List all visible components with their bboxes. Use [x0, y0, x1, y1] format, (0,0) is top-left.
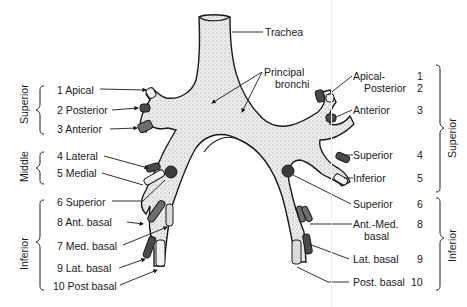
- left-group-superior: Superior: [18, 84, 30, 124]
- label-principal: Principal: [264, 66, 304, 78]
- label-bronchi: bronchi: [275, 78, 309, 90]
- right-group-superior: Superior: [446, 118, 458, 158]
- left-group-middle: Middle: [18, 151, 30, 182]
- left-seg-5-medial: 5 Medial: [57, 167, 97, 179]
- right-seg-2-posterior: Posterior: [364, 82, 406, 94]
- right-seg-6-superior: Superior: [353, 198, 393, 210]
- left-group-inferior: Inferior: [18, 237, 30, 270]
- right-seg-8-basal: basal: [364, 230, 389, 242]
- scan-divider-line: [331, 0, 332, 307]
- right-num-4: 4: [417, 149, 423, 161]
- right-seg-8-ant-med: Ant.-Med.: [353, 218, 399, 230]
- right-num-5: 5: [417, 172, 423, 184]
- right-num-8: 8: [417, 218, 423, 230]
- left-seg-4-lateral: 4 Lateral: [57, 150, 98, 162]
- label-trachea: Trachea: [265, 26, 303, 38]
- bronchial-tree-diagram: Trachea Principal bronchi Superior Middl…: [0, 0, 467, 307]
- right-seg-4-superior: Superior: [353, 149, 393, 161]
- left-seg-1-apical: 1 Apical: [57, 84, 94, 96]
- right-num-10: 10: [411, 276, 423, 288]
- right-seg-1-apical: Apical-: [353, 70, 385, 82]
- right-num-1: 1: [417, 70, 423, 82]
- right-seg-3-anterior: Anterior: [353, 104, 390, 116]
- right-group-inferior: Inferior: [446, 229, 458, 262]
- right-num-9: 9: [417, 253, 423, 265]
- left-seg-9-lat-basal: 9 Lat. basal: [57, 262, 111, 274]
- left-seg-7-med-basal: 7 Med. basal: [57, 240, 117, 252]
- right-seg-5-inferior: Inferior: [353, 172, 386, 184]
- left-seg-6-superior: 6 Superior: [57, 196, 105, 208]
- right-num-2: 2: [417, 82, 423, 94]
- right-num-3: 3: [417, 104, 423, 116]
- left-seg-3-anterior: 3 Anterior: [57, 123, 102, 135]
- right-seg-9-lat-basal: Lat. basal: [353, 253, 399, 265]
- airway-body: [140, 15, 354, 266]
- left-seg-10-post-basal: 10 Post basal: [53, 280, 117, 292]
- right-num-6: 6: [417, 198, 423, 210]
- right-seg-10-post-basal: Post. basal: [353, 276, 405, 288]
- left-seg-8-ant-basal: 8 Ant. basal: [57, 216, 112, 228]
- left-seg-2-posterior: 2 Posterior: [57, 104, 108, 116]
